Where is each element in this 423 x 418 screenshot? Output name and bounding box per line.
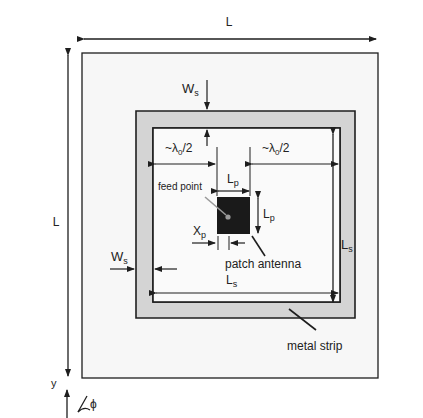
metal-strip-label: metal strip xyxy=(287,339,343,353)
axis-y-label: y xyxy=(51,377,57,389)
feed-point-dot xyxy=(225,214,230,219)
patch-antenna-label: patch antenna xyxy=(225,257,301,271)
antenna-diagram: L L Ws ~λ0/2 ~λ0/2 Lp Lp feed point Xp p… xyxy=(0,0,423,418)
L-left-label: L xyxy=(53,215,60,229)
phi-ray xyxy=(78,396,87,412)
feed-point-label: feed point xyxy=(158,181,202,192)
patch-antenna xyxy=(217,197,250,234)
axis-phi-label: ϕ xyxy=(90,397,97,411)
L-top-label: L xyxy=(226,15,233,29)
